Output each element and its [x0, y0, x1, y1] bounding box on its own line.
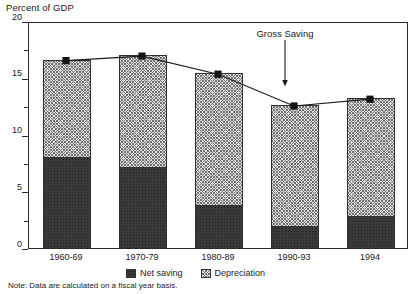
chart-footnote: Note: Data are calculated on a fiscal ye…	[8, 281, 177, 290]
gross-saving-marker	[366, 96, 373, 103]
gross-saving-marker	[138, 53, 145, 60]
legend-label-depreciation: Depreciation	[215, 268, 266, 278]
legend-label-net-saving: Net saving	[140, 268, 183, 278]
chart-figure: Percent of GDP 05101520 1960-691970-7919…	[0, 0, 416, 294]
legend-swatch-net-saving-icon	[126, 269, 136, 278]
annotation-arrow-icon	[282, 40, 288, 86]
gross-saving-line-overlay	[0, 0, 416, 294]
gross-saving-marker	[290, 102, 297, 109]
legend-swatch-depreciation-icon	[201, 269, 211, 278]
gross-saving-marker	[62, 57, 69, 64]
legend-item-depreciation: Depreciation	[201, 268, 266, 278]
gross-saving-line	[66, 56, 370, 106]
legend-item-net-saving: Net saving	[126, 268, 183, 278]
annotation-label-gross-saving: Gross Saving	[237, 28, 333, 39]
gross-saving-marker	[214, 71, 221, 78]
chart-legend: Net saving Depreciation	[126, 268, 265, 278]
